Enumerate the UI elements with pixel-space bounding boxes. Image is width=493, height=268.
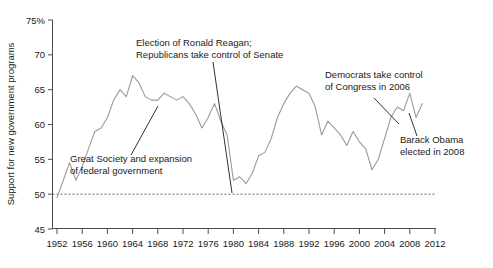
annotation-line: of Congress in 2006	[325, 81, 410, 92]
annotation-line: Democrats take control	[325, 69, 423, 80]
y-tick-label: 75%	[26, 15, 46, 26]
x-tick-label: 1968	[147, 238, 168, 249]
x-tick-label: 1996	[324, 238, 345, 249]
annotation-line: Republicans take control of Senate	[136, 49, 283, 60]
annotation-line: of federal government	[70, 165, 163, 176]
y-tick-label: 70	[34, 49, 45, 60]
x-tick-label: 2004	[374, 238, 395, 249]
x-tick-label: 1964	[122, 238, 143, 249]
x-tick-label: 1956	[72, 238, 93, 249]
annotation-line: Election of Ronald Reagan;	[136, 37, 252, 48]
x-tick-label: 1984	[248, 238, 269, 249]
y-tick-label: 65	[34, 84, 45, 95]
x-tick-label: 1988	[273, 238, 294, 249]
x-tick-label: 2000	[349, 238, 370, 249]
annotation-line: Great Society and expansion	[70, 153, 192, 164]
y-tick-label: 60	[34, 119, 45, 130]
x-tick-label: 1992	[298, 238, 319, 249]
x-tick-label: 1960	[97, 238, 118, 249]
annotation-line: elected in 2008	[400, 146, 464, 157]
annotation-text-democrats-congress: Democrats take controlof Congress in 200…	[325, 69, 423, 92]
x-tick-label: 1952	[46, 238, 67, 249]
x-tick-label: 2008	[399, 238, 420, 249]
y-tick-label: 50	[34, 189, 45, 200]
x-tick-label: 1976	[198, 238, 219, 249]
x-tick-label: 2012	[424, 238, 445, 249]
y-tick-label: 55	[34, 154, 45, 165]
chart-container: 75%706560555045 195219561960196419681972…	[0, 0, 493, 268]
x-tick-label: 1980	[223, 238, 244, 249]
annotation-line: Barack Obama	[400, 134, 464, 145]
x-tick-label: 1972	[172, 238, 193, 249]
annotation-text-obama: Barack Obamaelected in 2008	[400, 134, 464, 157]
line-chart: 75%706560555045 195219561960196419681972…	[0, 0, 493, 268]
y-axis-title: Support for new government programs	[5, 42, 16, 205]
y-tick-label: 45	[34, 224, 45, 235]
